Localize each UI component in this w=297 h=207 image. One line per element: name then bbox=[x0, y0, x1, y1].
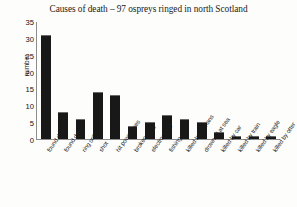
bar-chart: Causes of death – 97 ospreys ringed in n… bbox=[0, 0, 297, 207]
bar-slot bbox=[228, 22, 245, 139]
x-axis-label-text: shot bbox=[97, 140, 109, 153]
x-axis-labels: found deadfound dyingring onlyshothit po… bbox=[36, 141, 280, 207]
y-axis-tick: 0 bbox=[30, 136, 34, 145]
bar bbox=[110, 95, 120, 139]
chart-title: Causes of death – 97 ospreys ringed in n… bbox=[0, 4, 297, 14]
bar-slot bbox=[141, 22, 158, 139]
bar-slot bbox=[72, 22, 89, 139]
bar-slot bbox=[159, 22, 176, 139]
axes bbox=[36, 22, 280, 140]
y-axis-tick: 30 bbox=[26, 34, 34, 43]
y-axis-tick: 25 bbox=[26, 51, 34, 60]
bar-slot bbox=[37, 22, 54, 139]
bar-slot bbox=[176, 22, 193, 139]
bar-slot bbox=[89, 22, 106, 139]
bar bbox=[41, 35, 51, 140]
y-axis-ticks: 05101520253035 bbox=[18, 22, 36, 140]
y-axis-tick: 5 bbox=[30, 119, 34, 128]
y-axis-tick: 35 bbox=[26, 18, 34, 27]
y-axis-tick: 20 bbox=[26, 68, 34, 77]
y-axis-tick: 10 bbox=[26, 102, 34, 111]
bar-slot bbox=[106, 22, 123, 139]
bar-series bbox=[37, 22, 280, 139]
bar-slot bbox=[54, 22, 71, 139]
y-axis-tick: 15 bbox=[26, 85, 34, 94]
